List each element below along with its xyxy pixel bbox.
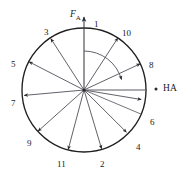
spoke-label-8: 8 [149,61,154,70]
center-hub [82,88,85,91]
ha-point-marker [155,88,158,91]
spoke-5 [29,62,84,90]
spoke-9 [38,90,84,131]
axis-label-fa: FA [70,10,81,22]
spoke-11 [68,90,84,150]
spoke-label-1: 1 [94,20,99,29]
spoke-label-6: 6 [150,118,155,127]
spoke-label-11: 11 [57,160,66,169]
spoke-label-7: 7 [11,99,16,108]
spoke-label-9: 9 [27,139,32,148]
spoke-6 [84,90,141,114]
spoke-label-10: 10 [122,29,131,38]
spoke-label-4: 4 [136,143,141,152]
axis-label-ha: HA [163,84,177,94]
spoke-label-2: 2 [100,160,105,169]
figure-canvas: FA HA 1 10 8 6 4 2 11 9 7 5 3 [0,0,190,180]
spoke-label-5: 5 [11,60,16,69]
spoke-7 [24,90,84,95]
spoke-3 [51,39,84,90]
spoke-label-3: 3 [44,28,49,37]
